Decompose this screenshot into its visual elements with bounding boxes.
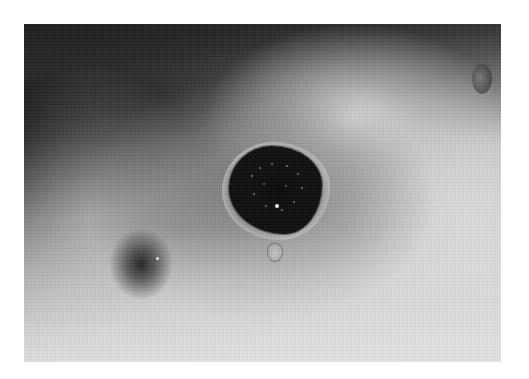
film-grain (24, 24, 501, 362)
clinical-photograph (24, 24, 501, 362)
image-canvas (0, 0, 529, 379)
